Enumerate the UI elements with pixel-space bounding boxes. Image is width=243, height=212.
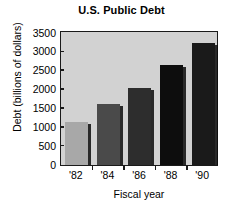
y-axis-tick-labels: 0500100015002000250030003500 (18, 0, 56, 212)
plot-area (60, 31, 218, 166)
y-axis-tick-label: 1500 (22, 103, 56, 113)
y-axis-tick-label: 500 (22, 141, 56, 151)
bar-shadow (151, 90, 154, 165)
bar-90[interactable] (192, 43, 215, 165)
y-axis-tick-mark (60, 107, 64, 109)
bar-slot (93, 30, 125, 165)
y-axis-tick-label: 2000 (22, 84, 56, 94)
y-axis-tick-mark (60, 88, 64, 90)
bar-slot (187, 30, 219, 165)
y-axis-tick-label: 0 (22, 160, 56, 170)
bar-slot (61, 30, 93, 165)
y-axis-tick-mark (60, 69, 64, 71)
y-axis-tick-label: 1000 (22, 122, 56, 132)
y-axis-tick-label: 3000 (22, 46, 56, 56)
chart-figure: U.S. Public Debt Debt (billions of dolla… (0, 0, 243, 212)
bar-shadow (88, 124, 91, 165)
y-axis-tick-label: 2500 (22, 65, 56, 75)
x-axis-tick-label: '90 (182, 169, 222, 181)
bar-slot (156, 30, 188, 165)
y-axis-tick-mark (60, 126, 64, 128)
y-axis-tick-mark (60, 145, 64, 147)
bars-container (61, 32, 217, 165)
bar-shadow (120, 106, 123, 165)
bar-shadow (183, 67, 186, 165)
bar-slot (124, 30, 156, 165)
bar-82[interactable] (65, 122, 88, 165)
bar-84[interactable] (97, 104, 120, 165)
x-axis-title: Fiscal year (60, 188, 218, 200)
bar-shadow (215, 45, 218, 165)
y-axis-tick-label: 3500 (22, 28, 56, 38)
y-axis-tick-mark (60, 51, 64, 53)
bar-88[interactable] (160, 65, 183, 165)
bar-86[interactable] (128, 88, 151, 165)
